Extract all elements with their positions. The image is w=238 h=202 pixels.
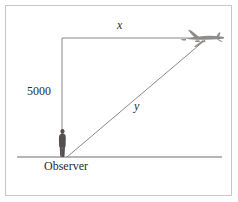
label-horizontal-distance: x xyxy=(117,19,122,31)
label-altitude: 5000 xyxy=(27,85,51,97)
figure-container: x y 5000 Observer xyxy=(0,0,238,202)
label-hypotenuse: y xyxy=(134,100,139,112)
label-observer: Observer xyxy=(44,160,88,172)
person-icon xyxy=(59,129,66,157)
